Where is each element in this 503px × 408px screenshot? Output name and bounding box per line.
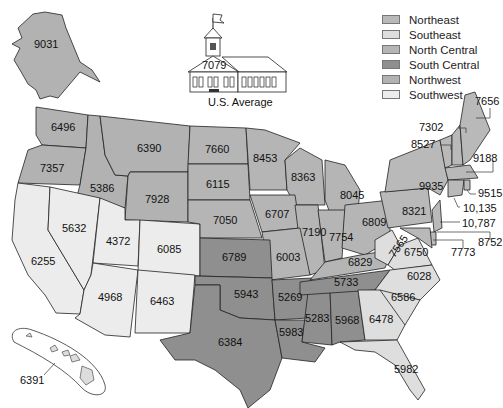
label-nd: 7660 [205,143,229,155]
legend: Northeast Southeast North Central South … [382,12,479,102]
label-ak: 9031 [34,38,58,50]
label-mo: 6003 [276,251,300,263]
label-md: 7773 [451,246,475,258]
label-mt: 6390 [137,142,161,154]
label-de: 8752 [478,236,502,248]
legend-label: North Central [409,44,477,56]
us-average-label: U.S. Average [208,96,273,108]
label-ms: 5283 [305,312,329,324]
legend-item-northeast: Northeast [382,12,479,27]
label-nh: 8527 [411,138,435,150]
label-pa: 8321 [402,205,426,217]
legend-label: Northeast [409,14,459,26]
legend-swatch [382,75,400,84]
label-wi: 8363 [291,171,315,183]
label-ky: 6829 [348,256,372,268]
state-alaska: 9031 [12,12,100,99]
label-ga: 6478 [369,313,393,325]
label-ne: 7050 [213,214,237,226]
legend-item-north-central: North Central [382,42,479,57]
label-hi: 6391 [20,374,44,386]
label-oh: 6809 [362,216,386,228]
label-ny: 9935 [419,180,443,192]
label-ri: 9515 [478,187,502,199]
label-mi: 8045 [340,189,364,201]
label-nj: 10,787 [462,217,496,229]
label-ia: 6707 [265,208,289,220]
label-ok: 5943 [234,288,258,300]
state-nj [432,200,442,232]
legend-item-southwest: Southwest [382,87,479,102]
legend-swatch [382,30,400,39]
label-wy: 7928 [145,193,169,205]
label-in: 7754 [329,231,353,243]
label-or: 7357 [40,162,64,174]
label-nc: 6028 [407,270,431,282]
label-ma: 9188 [473,152,497,164]
label-tn: 5733 [334,276,358,288]
state-ri [464,180,470,190]
legend-swatch [382,15,400,24]
legend-swatch [382,90,400,99]
legend-item-northwest: Northwest [382,72,479,87]
state-ct [448,180,464,197]
label-tx: 6384 [218,336,242,348]
label-sc: 6586 [391,291,415,303]
label-id: 5386 [90,182,114,194]
label-fl: 5982 [394,363,418,375]
legend-label: Southeast [409,29,461,41]
legend-label: South Central [409,59,479,71]
legend-label: Southwest [409,89,463,101]
label-az: 4968 [98,291,122,303]
state-ma [445,165,478,180]
label-vt: 7302 [419,121,443,133]
label-sd: 6115 [206,178,230,190]
legend-item-south-central: South Central [382,57,479,72]
legend-swatch [382,60,400,69]
legend-label: Northwest [409,74,461,86]
label-co: 6085 [157,243,181,255]
label-wa: 6496 [51,121,75,133]
us-average-value: 7079 [202,59,226,71]
label-ca: 6255 [31,255,55,267]
label-al: 5968 [335,314,359,326]
label-il: 7190 [302,226,326,238]
schoolhouse-icon: 7079 U.S. Average [188,14,287,108]
state-hawaii: 6391 [12,328,105,394]
label-ks: 6789 [222,251,246,263]
legend-item-southeast: Southeast [382,27,479,42]
label-mn: 8453 [253,152,277,164]
label-ut: 4372 [106,235,130,247]
label-va: 6750 [404,246,428,258]
legend-swatch [382,45,400,54]
label-ar: 5269 [278,291,302,303]
label-la: 5983 [279,326,303,338]
label-ct: 10,135 [463,202,497,214]
label-nv: 5632 [62,222,86,234]
label-nm: 6463 [150,295,174,307]
